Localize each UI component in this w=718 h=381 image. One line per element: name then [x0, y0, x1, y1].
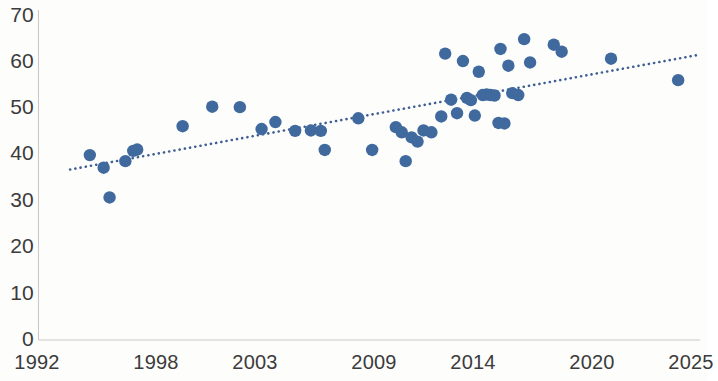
data-point: [512, 89, 524, 101]
data-point: [435, 110, 447, 122]
data-point: [469, 109, 481, 121]
data-point: [494, 43, 506, 55]
data-point: [555, 46, 567, 58]
data-point: [518, 33, 530, 45]
data-point: [411, 135, 423, 147]
data-point: [119, 155, 131, 167]
data-point: [131, 143, 143, 155]
x-tick-label-2025: 2025: [646, 352, 718, 372]
y-tick-label-70: 70: [0, 4, 34, 25]
y-tick-label-60: 60: [0, 50, 34, 71]
data-point: [84, 149, 96, 161]
data-point: [457, 55, 469, 67]
data-point: [498, 117, 510, 129]
x-tick-label-2014: 2014: [428, 352, 518, 372]
y-tick-label-20: 20: [0, 235, 34, 256]
trendline-path: [70, 55, 698, 170]
data-point: [97, 161, 109, 173]
data-point: [319, 144, 331, 156]
x-tick-label-2020: 2020: [547, 352, 637, 372]
data-point: [255, 123, 267, 135]
data-point: [451, 107, 463, 119]
data-point: [672, 74, 684, 86]
data-point: [289, 125, 301, 137]
x-tick-label-2009: 2009: [329, 352, 419, 372]
y-tick-label-30: 30: [0, 189, 34, 210]
data-point: [400, 155, 412, 167]
x-tick-label-1992: 1992: [0, 352, 82, 372]
x-tick-label-1998: 1998: [111, 352, 201, 372]
trendline: [70, 55, 698, 170]
axes-group: [39, 10, 701, 340]
data-point: [176, 120, 188, 132]
data-point: [425, 126, 437, 138]
data-point: [315, 125, 327, 137]
y-tick-label-10: 10: [0, 282, 34, 303]
data-point: [502, 59, 514, 71]
data-point: [352, 112, 364, 124]
data-point: [269, 116, 281, 128]
x-tick-label-2003: 2003: [210, 352, 300, 372]
data-point: [366, 144, 378, 156]
data-point: [524, 56, 536, 68]
y-tick-label-0: 0: [0, 328, 34, 349]
data-point: [465, 94, 477, 106]
data-point: [473, 66, 485, 78]
data-point: [103, 191, 115, 203]
y-tick-label-50: 50: [0, 96, 34, 117]
y-tick-label-40: 40: [0, 142, 34, 163]
data-point: [234, 101, 246, 113]
data-points-group: [84, 33, 685, 204]
data-point: [445, 93, 457, 105]
data-point: [605, 53, 617, 65]
data-point: [206, 100, 218, 112]
data-point: [488, 89, 500, 101]
data-point: [439, 47, 451, 59]
